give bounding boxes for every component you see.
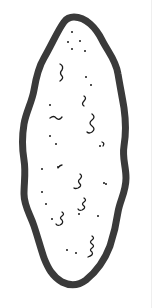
right-edge-divider — [151, 0, 152, 308]
blob-outline — [23, 17, 127, 285]
illustration-canvas — [0, 0, 153, 308]
blob-illustration — [0, 0, 153, 308]
